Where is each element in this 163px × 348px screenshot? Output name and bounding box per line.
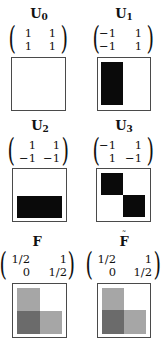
matrix-cell-01: 1 [38, 139, 60, 151]
matrix-cell-11: −1 [38, 152, 60, 164]
black-block [17, 196, 62, 218]
matrix-cell-10: 0 [92, 266, 116, 278]
panel-title: ˜ F [84, 235, 163, 249]
panel-f-tilde: ˜ F ( 1/2 1 0 1/2 ) [85, 226, 163, 348]
matrix-cell-00: 1 [14, 139, 36, 151]
matrix-cell-10: −1 [14, 152, 36, 164]
title-label: U [31, 118, 42, 133]
matrix-cell-11: 1 [34, 40, 56, 52]
matrix: ( −1 1 −1 1 ) [85, 25, 163, 53]
matrix-cell-01: 1 [120, 139, 142, 151]
title-label: U [115, 118, 126, 133]
matrix: ( 1/2 1 0 1/2 ) [85, 251, 163, 279]
panel-u1: U1 ( −1 1 −1 1 ) [85, 0, 163, 115]
title-subscript: 1 [127, 12, 133, 22]
panel-u3: U3 ( −1 1 1 −1 ) [85, 112, 163, 227]
dark-gray-bottom-left [17, 311, 40, 334]
right-paren-icon: ) [67, 248, 74, 280]
dark-gray-bottom-left [102, 310, 124, 334]
matrix-cell-10: 1 [10, 40, 32, 52]
matrix: ( 1/2 1 0 1/2 ) [0, 251, 80, 279]
title-subscript: 0 [42, 12, 48, 22]
black-block-top-left [101, 173, 123, 195]
matrix-cell-00: 1/2 [6, 253, 30, 265]
right-paren-icon: ) [153, 248, 160, 280]
title-subscript: 2 [43, 124, 49, 134]
matrix-cell-01: 1 [120, 27, 142, 39]
title-with-tilde: ˜ F [119, 235, 128, 249]
light-gray-bottom-right [124, 310, 146, 334]
matrix-cell-01: 1 [128, 253, 152, 265]
matrix: ( 1 1 1 1 ) [0, 25, 80, 53]
matrix-cell-00: 1 [10, 27, 32, 39]
right-paren-icon: ) [61, 134, 68, 166]
right-paren-icon: ) [146, 134, 153, 166]
matrix-cell-11: 1/2 [43, 266, 67, 278]
pattern-box-empty [11, 57, 66, 111]
pattern-box-gray-l [12, 283, 67, 338]
matrix-cell-11: 1/2 [128, 266, 152, 278]
light-gray-bottom-right [40, 311, 62, 334]
panel-title: F [0, 235, 77, 249]
pattern-box-left-half [97, 57, 151, 111]
panel-f: F ( 1/2 1 0 1/2 ) [0, 226, 80, 348]
matrix-cell-01: 1 [43, 253, 67, 265]
matrix-cell-01: 1 [34, 27, 56, 39]
panel-u2: U2 ( 1 1 −1 −1 ) [0, 112, 80, 227]
matrix-cell-10: 0 [6, 266, 30, 278]
matrix-cell-10: 1 [94, 152, 116, 164]
matrix-cell-00: −1 [94, 139, 116, 151]
pattern-box-gray-l [97, 283, 151, 338]
right-paren-icon: ) [60, 22, 67, 54]
right-paren-icon: ) [146, 22, 153, 54]
title-label: U [30, 6, 41, 21]
title-label: U [115, 6, 126, 21]
black-block-bottom-right [123, 195, 145, 217]
pattern-box-bottom-half [12, 168, 67, 222]
pattern-box-diagonal [96, 168, 151, 222]
title-label: F [32, 234, 41, 249]
matrix-cell-10: −1 [94, 40, 116, 52]
matrix-cell-00: 1/2 [92, 253, 116, 265]
matrix-cell-11: 1 [120, 40, 142, 52]
panel-u0: U0 ( 1 1 1 1 ) [0, 0, 80, 115]
matrix: ( 1 1 −1 −1 ) [0, 137, 80, 165]
matrix: ( −1 1 1 −1 ) [85, 137, 163, 165]
tilde-accent-icon: ˜ [122, 228, 127, 242]
light-gray-top-left [17, 288, 40, 311]
title-subscript: 3 [127, 124, 133, 134]
black-block [101, 62, 123, 105]
light-gray-top-left [102, 288, 124, 310]
matrix-cell-00: −1 [94, 27, 116, 39]
matrix-cell-11: −1 [120, 152, 142, 164]
